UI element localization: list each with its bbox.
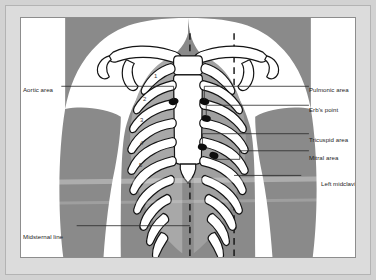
label-left-midclavicular-line: Left midclavicular line (295, 180, 356, 195)
chest-anatomy-illustration (21, 18, 355, 257)
figure-mat: 1 2 3 4 5 Aortic area Midsternal line Pu… (5, 5, 371, 275)
left-acromion (265, 56, 279, 79)
label-midsternal-line: Midsternal line (23, 233, 63, 240)
manubrium (174, 56, 203, 75)
figure-plate: 1 2 3 4 5 Aortic area Midsternal line Pu… (20, 17, 356, 258)
figure-panel: 1 2 3 4 5 Aortic area Midsternal line Pu… (0, 0, 376, 280)
right-clavicle (109, 46, 182, 63)
label-aortic-area: Aortic area (23, 86, 53, 93)
rib-number-1: 1 (154, 73, 157, 80)
right-acromion (97, 56, 111, 79)
label-pulmonic-area: Pulmonic area (309, 86, 349, 93)
label-erbs-point: Erb's point (309, 106, 338, 113)
rib-number-3: 3 (140, 117, 143, 124)
label-tricuspid-area: Tricuspid area (309, 136, 348, 143)
rib-number-4: 4 (140, 140, 143, 147)
label-mitral-area: Mitral area (309, 154, 338, 161)
sternum-body (174, 75, 203, 164)
rib-number-5: 5 (139, 162, 142, 169)
rib-number-2: 2 (143, 96, 146, 103)
left-clavicle (194, 46, 267, 63)
label-left-midclavicular-line-row1: Left midclavicular (321, 180, 356, 187)
